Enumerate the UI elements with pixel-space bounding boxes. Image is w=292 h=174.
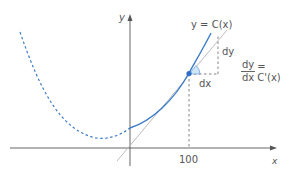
dx-label: dx (199, 79, 211, 89)
formula-rhs: = C'(x) (257, 61, 292, 83)
tangent-point (186, 71, 191, 76)
dy-label: dy (222, 47, 234, 57)
x-axis (10, 146, 277, 151)
x-axis-label: x (272, 157, 277, 166)
y-axis-arrow-icon (128, 14, 133, 21)
curve-dashed-portion (20, 32, 130, 138)
formula-denominator: dx (242, 72, 254, 83)
derivative-formula: dy dx = C'(x) (241, 60, 292, 83)
curve-label: y = C(x) (191, 20, 232, 30)
x-tick-label-100: 100 (179, 155, 198, 165)
tangent-line (117, 30, 227, 161)
formula-numerator: dy (241, 60, 255, 72)
y-axis-label: y (119, 13, 125, 23)
x-axis-arrow-icon (270, 146, 277, 151)
diagram-canvas (0, 0, 292, 174)
